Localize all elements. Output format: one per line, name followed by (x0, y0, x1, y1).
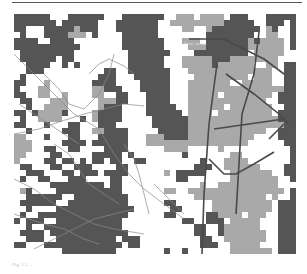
road-network (14, 14, 296, 254)
minor-road (154, 184, 184, 214)
minor-road (124, 144, 149, 214)
top-rule (12, 2, 302, 3)
land-use-map (14, 14, 296, 254)
minor-road (44, 54, 114, 109)
minor-road (14, 54, 184, 219)
minor-road (14, 214, 99, 244)
major-road (214, 119, 284, 129)
minor-road (14, 179, 144, 234)
minor-road (54, 144, 119, 204)
figure-caption: Fig. 1.1 ... (12, 262, 32, 267)
major-road (209, 152, 274, 174)
minor-road (89, 59, 134, 74)
map-label: Boro...ta km (184, 41, 206, 46)
minor-road (34, 209, 134, 249)
major-road (226, 74, 289, 124)
major-road (269, 124, 284, 139)
minor-road (14, 104, 144, 134)
